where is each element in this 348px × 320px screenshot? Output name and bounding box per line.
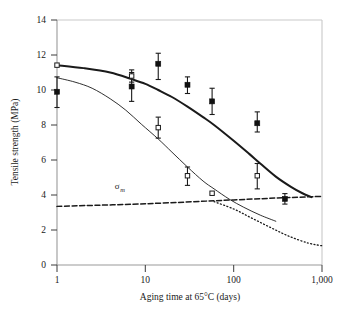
data-point-filled-square [129, 84, 134, 89]
sigma-m-annotation: σ m [115, 181, 126, 192]
y-tick-label-10: 10 [37, 85, 47, 95]
y-tick-label-14: 14 [37, 15, 47, 25]
y-axis-ticks [51, 20, 57, 265]
x-tick-label-1: 1 [55, 275, 60, 285]
data-point-open-square [185, 174, 189, 178]
data-point-filled-square [282, 196, 287, 201]
data-point-filled-square [185, 82, 190, 87]
plot-frame [57, 20, 322, 265]
series-filled-squares [54, 53, 287, 204]
data-series-layer [54, 53, 287, 204]
x-axis-title: Aging time at 65°C (days) [140, 292, 240, 303]
data-point-open-square [255, 174, 259, 178]
chart-canvas: 0 2 4 6 8 10 12 14 1 10 100 1,000 Aging … [0, 0, 348, 320]
sigma-symbol: σ [115, 181, 120, 191]
y-tick-label-6: 6 [41, 155, 46, 165]
data-point-filled-square [255, 121, 260, 126]
data-point-open-square [55, 63, 59, 67]
upper-fit-curve [57, 65, 311, 197]
x-tick-label-100: 100 [227, 275, 242, 285]
tensile-strength-chart-figure: 0 2 4 6 8 10 12 14 1 10 100 1,000 Aging … [0, 0, 348, 320]
fit-curves-layer [57, 65, 322, 246]
x-axis-tick-labels: 1 10 100 1,000 [55, 275, 333, 285]
y-tick-label-12: 12 [37, 50, 47, 60]
sigma-m-dotted-branch [214, 202, 322, 246]
data-point-filled-square [55, 89, 60, 94]
sigma-subscript: m [120, 186, 125, 193]
series-open-squares [55, 63, 260, 196]
x-tick-label-1000: 1,000 [311, 275, 333, 285]
y-tick-label-8: 8 [41, 120, 46, 130]
data-point-filled-square [156, 61, 161, 66]
x-axis-ticks [57, 265, 322, 272]
y-tick-label-0: 0 [41, 260, 46, 270]
x-tick-label-10: 10 [141, 275, 151, 285]
data-point-filled-square [210, 99, 215, 104]
y-axis-title: Tensile strength (MPa) [10, 99, 21, 186]
data-point-open-square [210, 191, 214, 195]
y-axis-tick-labels: 0 2 4 6 8 10 12 14 [37, 15, 47, 270]
data-point-open-square [156, 125, 160, 129]
data-point-open-square [129, 74, 133, 78]
y-tick-label-4: 4 [41, 190, 46, 200]
y-tick-label-2: 2 [41, 225, 46, 235]
